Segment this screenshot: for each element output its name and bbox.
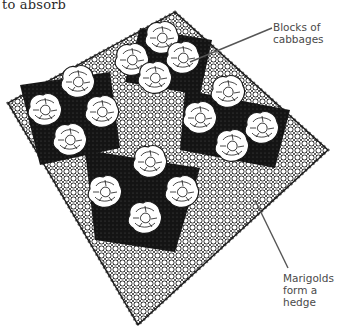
- label-blocks-of-cabbages: Blocks of cabbages: [273, 21, 324, 45]
- label-line: Blocks of: [273, 21, 324, 33]
- label-marigolds-hedge: Marigolds form a hedge: [283, 272, 334, 308]
- label-line: cabbages: [273, 33, 324, 45]
- label-line: hedge: [283, 296, 334, 308]
- leader-line-marigolds: [255, 200, 288, 268]
- label-line: form a: [283, 284, 334, 296]
- label-line: Marigolds: [283, 272, 334, 284]
